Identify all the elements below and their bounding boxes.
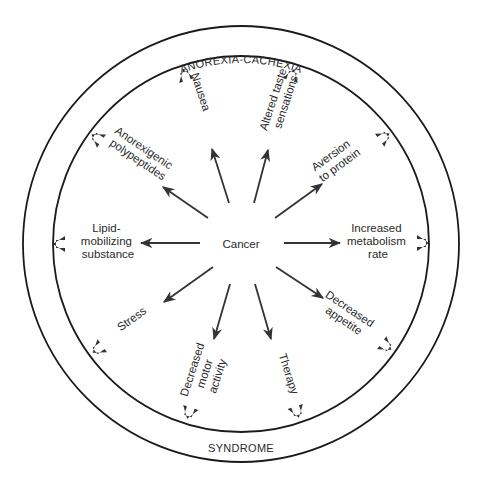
thin-arrow-icon [275,184,322,218]
factor-label: Aversion to protein [309,135,362,183]
thin-arrow-icon [255,284,271,339]
ring-title-bottom: SYNDROME [208,442,274,454]
factor-altered-taste: Altered taste sensations [254,64,302,203]
factor-metabolism: Increased metabolism rate [284,222,429,260]
factor-label: Lipid- mobilizing substance [81,222,135,260]
factor-anorexigenic: Anorexigenic polypeptides [87,124,208,218]
factor-label: Stress [115,304,149,333]
thick-arrow-icon [288,404,307,420]
thin-arrow-icon [214,284,230,339]
factor-label: Decreased appetite [316,288,379,342]
factor-motor: Decreased motor activity [178,284,232,421]
factor-nausea: Nausea [175,67,229,203]
anorexia-cachexia-diagram: ANOREXIA-CACHEXIA SYNDROME Cancer Nausea… [0,0,479,477]
factor-aversion: Aversion to protein [275,127,394,218]
thin-arrow-icon [212,149,229,203]
thick-arrow-icon [179,405,198,421]
thin-arrow-icon [164,267,213,302]
thick-arrow-icon [53,236,65,252]
center-label-cancer: Cancer [222,238,259,250]
thick-arrow-icon [417,235,429,251]
factor-label: Therapy [277,352,302,396]
thin-arrow-icon [254,150,268,203]
factor-label: Decreased motor activity [178,338,232,406]
factor-label: Altered taste sensations [257,64,302,136]
thin-arrow-icon [276,267,323,298]
thin-arrow-icon [163,187,208,218]
factor-label: Increased metabolism rate [347,222,409,260]
factor-therapy: Therapy [255,284,307,420]
factor-lipid: Lipid- mobilizing substance [53,222,200,260]
factor-appetite: Decreased appetite [276,267,396,356]
factor-label: Anorexigenic polypeptides [106,124,178,184]
